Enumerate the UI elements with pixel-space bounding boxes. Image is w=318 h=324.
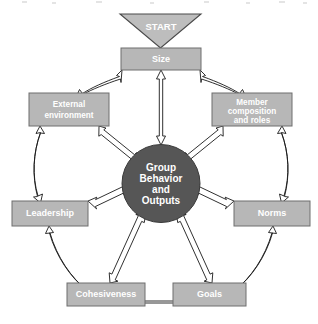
diagram-canvas: START Group Behavior and Outputs Size Me… [0,0,318,324]
node-goals: Goals [173,283,246,306]
scan-noise [22,1,307,4]
node-size: Size [121,48,201,70]
spoke-cohesiveness-center [109,213,146,283]
node-external-environment-shape [29,93,109,126]
node-goals-label: Goals [197,289,222,299]
node-member-composition-and-roles: Member composition and roles [212,93,292,126]
center-node: Group Behavior and Outputs [122,145,200,223]
node-size-label: Size [152,54,170,64]
node-cohesiveness: Cohesiveness [67,283,145,306]
node-member-composition-and-roles-label-line-3: and roles [234,116,271,125]
node-leadership: Leadership [12,201,88,226]
node-external-environment-label-line-1: External [53,100,85,109]
center-label-line-2: Behavior [140,173,183,184]
node-cohesiveness-label: Cohesiveness [76,289,137,299]
start-label: START [146,21,177,32]
center-label-line-4: Outputs [142,195,181,206]
ring-link-member-composition-norms [278,126,289,203]
node-norms: Norms [234,201,310,226]
node-norms-label: Norms [258,208,287,218]
center-label-line-1: Group [146,162,176,173]
group-behavior-diagram: START Group Behavior and Outputs Size Me… [0,0,318,324]
ring-link-external-environment-leadership [34,126,45,203]
node-external-environment: External environment [29,93,109,126]
node-member-composition-and-roles-label-line-2: composition [228,107,277,116]
node-external-environment-label-line-2: environment [44,111,93,120]
node-leadership-label: Leadership [26,208,75,218]
spoke-goals-center [176,213,213,283]
start-node: START [120,14,201,48]
center-label-line-3: and [152,184,170,195]
spoke-size-center [157,70,166,145]
node-member-composition-and-roles-label-line-1: Member [236,98,268,107]
